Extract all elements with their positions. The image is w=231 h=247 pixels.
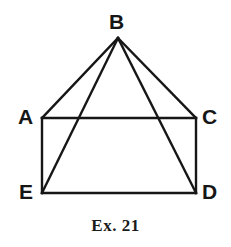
geometry-figure: B A C E D Ex. 21	[0, 0, 231, 247]
segment-BE	[42, 38, 118, 193]
segment-BA	[42, 38, 118, 118]
vertex-label-C: C	[202, 106, 217, 127]
vertex-label-A: A	[18, 106, 33, 127]
vertex-label-B: B	[109, 11, 124, 32]
geometry-drawing	[0, 0, 231, 247]
vertex-label-E: E	[19, 181, 33, 202]
figure-caption: Ex. 21	[0, 216, 231, 236]
vertex-label-D: D	[202, 181, 217, 202]
segment-BC	[118, 38, 196, 118]
segment-BD	[118, 38, 196, 193]
